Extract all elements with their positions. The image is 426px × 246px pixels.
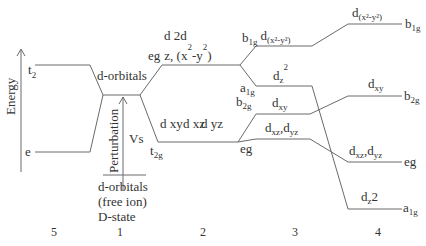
column-number-5: 5: [51, 225, 57, 239]
dz2-label: dz2: [273, 62, 288, 85]
b2g-label: b2g: [404, 88, 420, 105]
label-d-orbitals: d-orbitals: [97, 68, 147, 83]
t2g-orbital-dyz: d yz: [201, 116, 223, 131]
dxz-dyz-label: dxz,dyz: [265, 120, 298, 137]
dz2-label: dz2: [361, 189, 378, 206]
column-number-1: 1: [117, 225, 123, 239]
dxy-label: dxy: [272, 95, 288, 112]
eg-label: egz, (x2-y2): [148, 42, 212, 63]
column-numbers: 5 1 2 3 4: [51, 225, 381, 239]
column-3: b1gd(x²-y²) a1g dz2 b2g dxy eg dxz,dyz: [236, 24, 348, 209]
free-ion-line-1: d-orbitals: [98, 179, 148, 194]
dxy-label: dxy: [368, 76, 384, 93]
column-number-4: 4: [375, 225, 381, 239]
column-4: d(x²-y²) b1g dxy b2g dxz,dyz eg dz2 a1g: [348, 5, 421, 217]
column-number-2: 2: [200, 225, 206, 239]
eg-orbitals-top: d 2d: [164, 28, 187, 43]
energy-level-diagram: Energy t2 e d-orbitals Perturbation Vs d…: [0, 0, 426, 246]
b1g-label: b1gd(x²-y²): [242, 28, 290, 47]
column-number-3: 3: [292, 225, 298, 239]
vs-label: Vs: [129, 131, 143, 146]
dxz-dyz-label: dxz,dyz: [349, 143, 382, 160]
t2g-label: t2g: [150, 143, 163, 160]
eg-label: eg: [240, 141, 253, 156]
energy-axis: Energy: [3, 49, 25, 172]
a1g-label: a1g: [403, 200, 418, 217]
label-e: e: [25, 144, 31, 159]
dx2y2-label: d(x²-y²): [352, 5, 382, 22]
t2g-orbital-dxy: d xy: [160, 116, 183, 131]
column-5: t2 e: [25, 62, 103, 159]
free-ion-line-3: D-state: [98, 209, 136, 224]
axis-label: Energy: [3, 77, 18, 115]
b1g-label: b1g: [405, 16, 421, 33]
eg-label: eg: [404, 154, 417, 169]
label-t2: t2: [28, 62, 36, 80]
perturbation-label: Perturbation: [106, 108, 121, 173]
free-ion-line-2: (free ion): [98, 194, 147, 209]
